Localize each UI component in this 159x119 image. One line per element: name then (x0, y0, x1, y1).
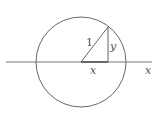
hypotenuse-label: 1 (86, 36, 93, 49)
vertical-leg-label: y (109, 40, 117, 53)
axis-label: x (145, 64, 152, 77)
unit-circle-diagram: 1 y x x (0, 0, 159, 119)
horizontal-leg-label: x (90, 64, 97, 77)
